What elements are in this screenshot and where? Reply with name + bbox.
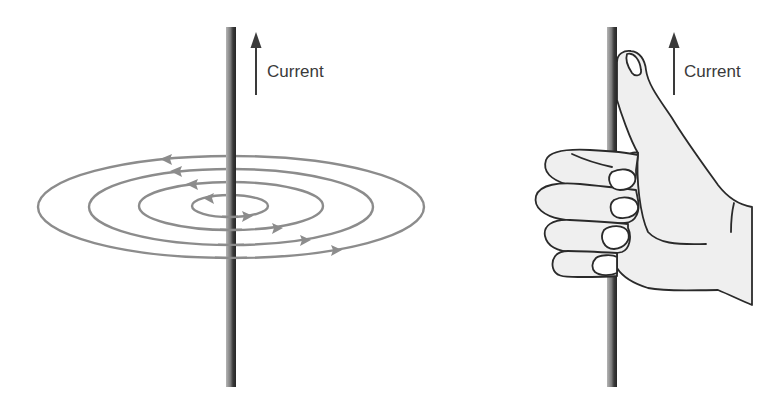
arrow-up-icon [251,32,262,48]
right-hand-grip-rule: Current [536,27,752,387]
arrow-up-icon [669,32,680,48]
current-label-left: Current [267,62,324,81]
current-arrow-right [669,32,680,95]
current-arrow-left [251,32,262,95]
arrowhead-left-icon [203,193,214,204]
fingernail [592,255,617,275]
current-label-right: Current [684,62,741,81]
field-lines-diagram: Current [38,27,424,387]
fingernail [609,169,635,190]
figure-canvas: Current [0,0,784,404]
hand [536,51,752,305]
fingernail [611,198,638,219]
wire [226,27,236,387]
fingernail [602,226,629,249]
